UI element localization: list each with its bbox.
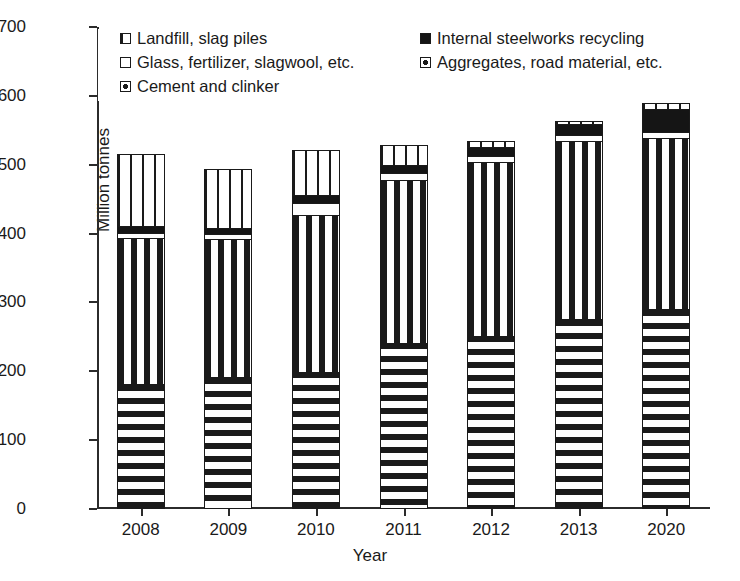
- y-axis-tick-mark: [89, 301, 97, 303]
- bar-segment: [292, 215, 340, 373]
- x-axis-tick-label-2010: 2010: [271, 520, 361, 540]
- bar-segment: [380, 179, 428, 344]
- bar-segment: [642, 137, 690, 310]
- bar-segment: [642, 103, 690, 109]
- legend-item[interactable]: Cement and clinker: [120, 77, 279, 96]
- legend-item[interactable]: Landfill, slag piles: [120, 29, 267, 48]
- legend-label: Internal steelworks recycling: [437, 29, 644, 48]
- legend-swatch-icon: [420, 57, 431, 68]
- bar-segment: [555, 121, 603, 124]
- bar-segment: [467, 141, 515, 148]
- bar-segment: [642, 108, 690, 133]
- y-axis-tick-mark: [89, 439, 97, 441]
- bar-segment: [380, 342, 428, 509]
- legend-item[interactable]: Aggregates, road material, etc.: [420, 53, 663, 72]
- x-axis-tick-mark: [491, 509, 493, 516]
- bar-segment: [555, 319, 603, 509]
- bar-segment: [467, 335, 515, 509]
- legend-row: Glass, fertilizer, slagwool, etc.Aggrega…: [98, 53, 710, 75]
- y-axis-tick-label: 400: [0, 225, 26, 242]
- bar-segment: [555, 123, 603, 136]
- legend-row: Landfill, slag pilesInternal steelworks …: [98, 29, 710, 51]
- bar-segment: [380, 145, 428, 166]
- bar-segment: [117, 154, 165, 227]
- bar-segment: [292, 371, 340, 509]
- y-axis-tick-mark: [89, 508, 97, 510]
- bar-segment: [292, 150, 340, 197]
- y-axis-tick-mark: [89, 370, 97, 372]
- y-axis-tick-mark: [89, 95, 97, 97]
- x-axis-tick-label-2020: 2020: [621, 520, 711, 540]
- y-axis-tick-mark: [89, 233, 97, 235]
- legend-label: Landfill, slag piles: [137, 29, 267, 48]
- bar-segment: [204, 239, 252, 378]
- bar-segment: [117, 238, 165, 385]
- x-axis-tick-label-2013: 2013: [534, 520, 624, 540]
- x-axis-tick-label-2012: 2012: [446, 520, 536, 540]
- x-axis-tick-mark: [404, 509, 406, 516]
- legend-item[interactable]: Glass, fertilizer, slagwool, etc.: [120, 53, 354, 72]
- x-axis-tick-label-2009: 2009: [183, 520, 273, 540]
- x-axis-label: Year: [0, 546, 740, 566]
- x-axis-tick-label-2008: 2008: [96, 520, 186, 540]
- bar-segment: [117, 384, 165, 509]
- legend-swatch-icon: [120, 57, 131, 68]
- y-axis-tick-label: 200: [0, 362, 26, 379]
- bar-segment: [380, 165, 428, 175]
- bar-segment: [204, 169, 252, 229]
- x-axis-tick-mark: [666, 509, 668, 516]
- chart-legend: Landfill, slag pilesInternal steelworks …: [98, 29, 710, 101]
- y-axis-tick-mark: [89, 164, 97, 166]
- y-axis-tick-label: 700: [0, 18, 26, 35]
- legend-item[interactable]: Internal steelworks recycling: [420, 29, 644, 48]
- y-axis-tick-mark: [89, 26, 97, 28]
- x-axis-tick-mark: [579, 509, 581, 516]
- x-axis-tick-mark: [141, 509, 143, 516]
- y-axis-tick-label: 100: [0, 431, 26, 448]
- y-axis-tick-label: 500: [0, 156, 26, 173]
- stacked-bar-chart: Million tonnes 0100200300400500600700 20…: [0, 0, 740, 581]
- bar-segment: [292, 203, 340, 217]
- legend-label: Aggregates, road material, etc.: [437, 53, 663, 72]
- legend-label: Glass, fertilizer, slagwool, etc.: [137, 53, 354, 72]
- x-axis-tick-mark: [316, 509, 318, 516]
- x-axis-tick-label-2011: 2011: [359, 520, 449, 540]
- y-axis-tick-label: 600: [0, 87, 26, 104]
- bar-segment: [642, 309, 690, 509]
- bar-segment: [555, 141, 603, 321]
- x-axis-tick-mark: [228, 509, 230, 516]
- legend-swatch-icon: [120, 81, 131, 92]
- legend-label: Cement and clinker: [137, 77, 279, 96]
- bar-segment: [204, 377, 252, 509]
- bar-segment: [467, 162, 515, 337]
- legend-row: Cement and clinker: [98, 77, 710, 99]
- bar-segment: [467, 146, 515, 157]
- legend-swatch-icon: [120, 33, 131, 44]
- y-axis-tick-label: 300: [0, 293, 26, 310]
- y-axis-tick-label: 0: [0, 500, 26, 517]
- legend-swatch-icon: [420, 33, 431, 44]
